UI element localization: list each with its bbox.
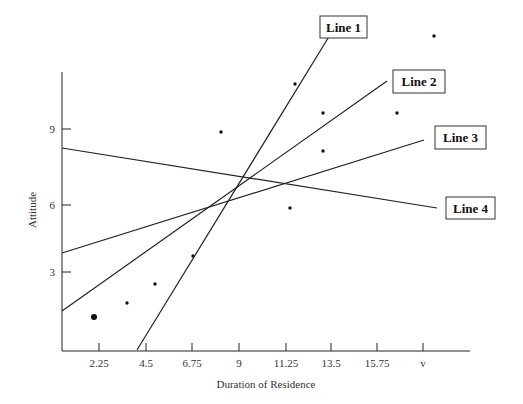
x-tick-label: 13.5 xyxy=(321,357,341,369)
x-tick-label: 6.75 xyxy=(182,357,202,369)
y-tick-label: 6 xyxy=(50,199,56,211)
svg-text:Line 3: Line 3 xyxy=(443,130,479,145)
x-tick-label: 4.5 xyxy=(139,357,153,369)
scatter-points xyxy=(91,34,436,320)
data-point xyxy=(395,111,398,114)
line-2-label: Line 2 xyxy=(393,70,445,93)
x-tick-label: 2.25 xyxy=(89,357,109,369)
x-tick-label: 9 xyxy=(236,357,242,369)
line-3-label: Line 3 xyxy=(435,126,486,149)
data-point xyxy=(293,82,296,85)
data-point xyxy=(321,149,324,152)
svg-text:Line 1: Line 1 xyxy=(326,20,361,35)
data-point xyxy=(91,314,97,320)
svg-text:Line 2: Line 2 xyxy=(401,74,436,89)
x-tick-label: 15.75 xyxy=(365,357,390,369)
data-point xyxy=(125,301,128,304)
svg-text:Line 4: Line 4 xyxy=(453,201,489,216)
data-point xyxy=(432,34,435,37)
line-4-label: Line 4 xyxy=(446,197,495,219)
data-point xyxy=(321,111,324,114)
chart: 9 6 3 2.25 4.5 6.75 9 11.25 13.5 15.75 v… xyxy=(0,0,523,404)
y-axis-label: Attitude xyxy=(26,192,38,228)
line-4 xyxy=(62,148,437,208)
x-axis-label: Duration of Residence xyxy=(217,378,316,390)
data-point xyxy=(288,206,291,209)
line-1-label: Line 1 xyxy=(320,16,367,38)
x-ticks: 2.25 4.5 6.75 9 11.25 13.5 15.75 v xyxy=(89,343,426,369)
data-point xyxy=(153,282,156,285)
y-ticks: 9 6 3 xyxy=(50,123,72,278)
x-tick-label: v xyxy=(420,357,426,369)
y-tick-label: 3 xyxy=(50,266,56,278)
data-point xyxy=(219,130,222,133)
y-tick-label: 9 xyxy=(50,123,56,135)
line-1 xyxy=(137,17,341,350)
x-tick-label: 11.25 xyxy=(274,357,299,369)
line-2 xyxy=(62,81,387,311)
